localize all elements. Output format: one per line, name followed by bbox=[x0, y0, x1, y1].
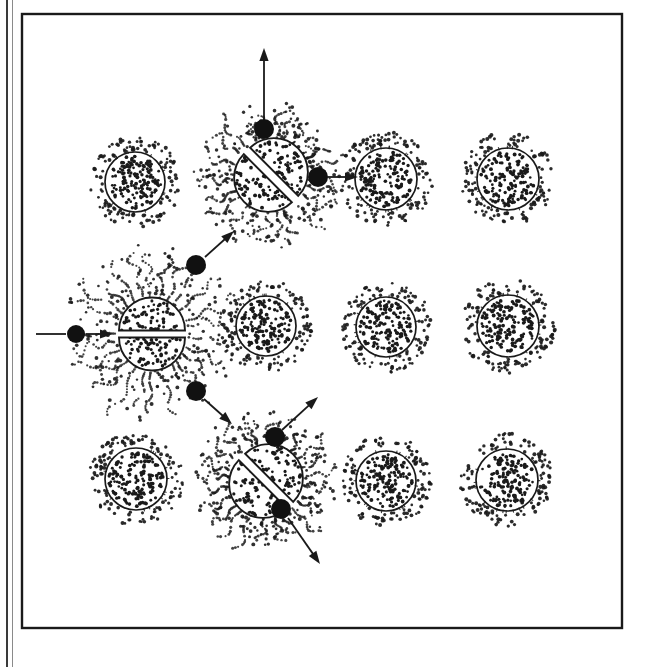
neutron-emitted-down-right bbox=[271, 499, 291, 519]
figure-canvas bbox=[0, 0, 648, 667]
neutron-emitted-right bbox=[308, 167, 328, 187]
neutron-emitted-up bbox=[254, 119, 274, 139]
fission-chain-reaction-figure bbox=[0, 0, 648, 667]
neutron-incoming bbox=[67, 325, 85, 343]
neutron-emitted-up-right bbox=[265, 427, 285, 447]
figure-outer-rule bbox=[6, 0, 8, 667]
figure-outer-rule-hairline bbox=[12, 0, 13, 667]
neutron-to-lower-fission bbox=[186, 381, 206, 401]
neutron-to-upper-fission bbox=[186, 255, 206, 275]
